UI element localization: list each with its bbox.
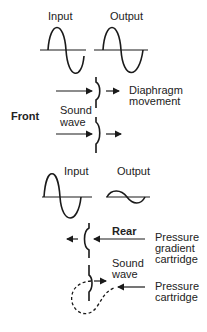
rear-sound-wave-2: wave	[112, 269, 138, 280]
diaphragm-label-2: movement	[129, 96, 180, 107]
front-output-waveform	[94, 28, 148, 73]
front-sound-wave-1: Sound	[60, 105, 92, 116]
rear-input-waveform	[42, 174, 92, 218]
front-heading: Front	[11, 111, 39, 122]
front-sound-wave-2: wave	[60, 117, 86, 128]
rear-output-waveform	[106, 191, 150, 203]
rear-output-label: Output	[117, 166, 150, 177]
front-input-waveform	[40, 28, 86, 74]
rear-input-label: Input	[64, 166, 88, 177]
front-input-label: Input	[48, 11, 72, 22]
pressure-gradient-3: cartridge	[155, 254, 198, 265]
pressure-cartridge-2: cartridge	[155, 292, 198, 303]
rear-heading: Rear	[112, 226, 136, 237]
front-output-label: Output	[110, 11, 143, 22]
